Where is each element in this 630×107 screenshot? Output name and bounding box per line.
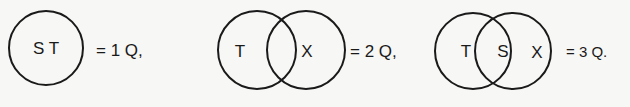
circle-t	[218, 11, 296, 89]
label-x: X	[301, 42, 312, 61]
diagram-1: S T = 1 Q,	[9, 11, 143, 85]
label-x: X	[531, 43, 542, 62]
equation-1: = 1 Q,	[96, 41, 143, 60]
venn-diagram-row: S T = 1 Q, T X = 2 Q, T S X = 3 Q.	[0, 0, 630, 107]
equation-2: = 2 Q,	[350, 42, 397, 61]
label-t: T	[461, 42, 471, 61]
diagram-3: T S X = 3 Q.	[435, 13, 607, 89]
label-st: S T	[33, 39, 59, 58]
label-s: S	[497, 42, 508, 61]
diagram-2: T X = 2 Q,	[218, 11, 397, 89]
equation-3: = 3 Q.	[566, 43, 607, 60]
label-t: T	[235, 42, 245, 61]
